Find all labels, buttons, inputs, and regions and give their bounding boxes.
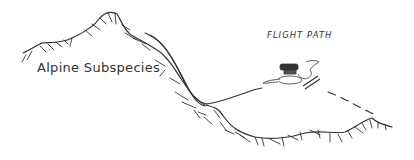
- flight-path-label: FLIGHT PATH: [267, 30, 333, 40]
- bird-icon: [263, 61, 320, 90]
- flight-path-dashed: [328, 92, 378, 116]
- habitat-label: Alpine Subspecies: [37, 60, 160, 75]
- terrain-illustration: [0, 0, 414, 160]
- flight-path-rising: [207, 88, 262, 104]
